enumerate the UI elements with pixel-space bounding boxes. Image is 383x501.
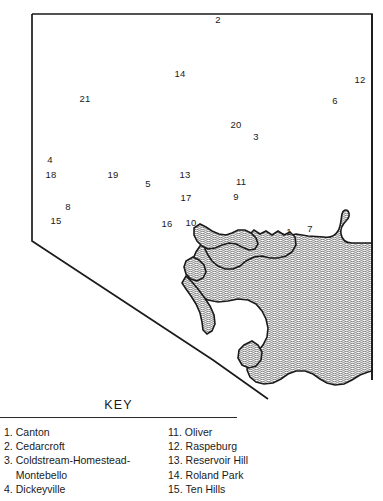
map-marker-15: 15: [51, 216, 62, 226]
key-entry: 2.Cedarcroft: [4, 439, 174, 453]
map-marker-2: 2: [215, 15, 220, 25]
map-figure: 214122162034181913115179815161017: [0, 0, 383, 400]
city-boundary-map: [0, 0, 383, 400]
key-column-left: 1.Canton2.Cedarcroft3.Coldstream-Homeste…: [4, 425, 174, 496]
key-entry: 11.Oliver: [168, 425, 368, 439]
map-marker-17: 17: [181, 193, 192, 203]
key-entry-number: 1.: [4, 425, 13, 439]
map-key: KEY 1.Canton2.Cedarcroft3.Coldstream-Hom…: [0, 398, 383, 501]
key-entry: 4.Dickeyville: [4, 482, 174, 496]
map-marker-21: 21: [80, 94, 91, 104]
map-marker-6: 6: [332, 96, 337, 106]
map-marker-7: 7: [307, 224, 312, 234]
map-page: 214122162034181913115179815161017 KEY 1.…: [0, 0, 383, 501]
water-south-branch: [238, 341, 262, 368]
key-entry-number: 14.: [168, 468, 183, 482]
map-marker-5: 5: [145, 179, 150, 189]
key-entry: 3.Coldstream-Homestead-Montebello: [4, 453, 174, 481]
key-entry-number: 13.: [168, 453, 183, 467]
key-column-right: 11.Oliver12.Raspeburg13.Reservoir Hill14…: [168, 425, 368, 496]
key-entry-number: 12.: [168, 439, 183, 453]
key-entry: 14.Roland Park: [168, 468, 368, 482]
map-marker-9: 9: [233, 192, 238, 202]
key-entry: 1.Canton: [4, 425, 174, 439]
key-entry-name: Coldstream-Homestead-Montebello: [16, 453, 174, 481]
map-marker-8: 8: [65, 202, 70, 212]
key-entry-name: Roland Park: [186, 468, 368, 482]
map-marker-11: 11: [236, 177, 246, 187]
key-title: KEY: [0, 398, 237, 412]
key-entry-number: 3.: [4, 453, 13, 467]
key-entry: 13.Reservoir Hill: [168, 453, 368, 467]
key-entry-name: Reservoir Hill: [186, 453, 368, 467]
key-entry-name: Raspeburg: [186, 439, 368, 453]
key-entry-number: 11.: [168, 425, 182, 439]
map-marker-12: 12: [355, 75, 366, 85]
key-entry-name: Cedarcroft: [16, 439, 174, 453]
key-entry: 12.Raspeburg: [168, 439, 368, 453]
map-marker-1: 1: [286, 227, 291, 237]
key-divider: [0, 417, 237, 418]
map-marker-19: 19: [108, 170, 119, 180]
map-marker-3: 3: [253, 132, 258, 142]
key-entry-number: 2.: [4, 439, 13, 453]
map-marker-4: 4: [47, 155, 52, 165]
map-marker-10: 10: [186, 218, 197, 228]
map-marker-20: 20: [231, 120, 242, 130]
key-entry: 15.Ten Hills: [168, 482, 368, 496]
key-entry-number: 4.: [4, 482, 13, 496]
key-entry-name: Dickeyville: [16, 482, 174, 496]
key-entry-name: Ten Hills: [186, 482, 368, 496]
key-entry-name: Canton: [16, 425, 174, 439]
key-entry-name: Oliver: [185, 425, 368, 439]
map-marker-13: 13: [180, 170, 191, 180]
map-marker-18: 18: [46, 170, 57, 180]
key-entry-number: 15.: [168, 482, 183, 496]
map-marker-16: 16: [162, 219, 173, 229]
map-marker-14: 14: [175, 69, 186, 79]
